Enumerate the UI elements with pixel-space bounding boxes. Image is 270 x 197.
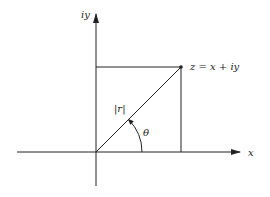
- y-axis-label: iy: [81, 9, 90, 20]
- x-axis-label: x: [248, 147, 254, 158]
- angle-arc: [129, 120, 143, 153]
- radius-vector: [96, 67, 181, 152]
- angle-label: θ: [143, 127, 149, 138]
- point-label: z = x + iy: [189, 61, 240, 72]
- modulus-label: |r|: [114, 103, 126, 115]
- point-z: [179, 65, 183, 69]
- complex-plane-diagram: iy x z = x + iy |r| θ: [0, 0, 270, 197]
